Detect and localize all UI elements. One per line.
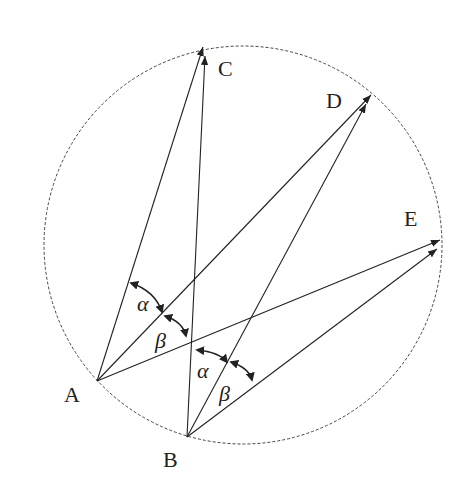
- segment-b-d: [187, 104, 366, 437]
- angle-arc-beta-b: [231, 362, 252, 380]
- label-d: D: [326, 88, 342, 113]
- segment-b-e: [187, 249, 437, 437]
- point-labels: A B C D E: [64, 56, 417, 472]
- circumscribed-circle: [44, 46, 442, 444]
- chords-from-b: [187, 56, 437, 437]
- inscribed-angle-diagram: A B C D E α β α β: [0, 0, 474, 491]
- angle-label-alpha-b: α: [197, 358, 209, 383]
- label-b: B: [163, 447, 178, 472]
- segment-a-c: [97, 47, 203, 381]
- label-c: C: [218, 56, 233, 81]
- segment-a-d: [97, 95, 371, 381]
- angle-label-beta-b: β: [218, 381, 230, 406]
- label-a: A: [64, 382, 80, 407]
- label-e: E: [404, 206, 417, 231]
- chords-from-a: [97, 47, 440, 381]
- angle-label-beta-a: β: [154, 328, 166, 353]
- angle-labels: α β α β: [137, 291, 230, 406]
- angle-label-alpha-a: α: [137, 291, 149, 316]
- angle-arc-beta-a: [165, 316, 186, 336]
